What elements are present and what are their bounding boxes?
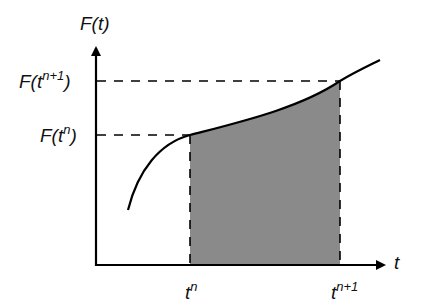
- y-tick-f-tn: F(tn): [40, 126, 77, 145]
- x-tick-tn1: tn+1: [331, 283, 358, 302]
- y-axis-label: F(t): [80, 14, 110, 33]
- diagram-canvas: [0, 0, 425, 307]
- x-axis-label: t: [394, 253, 399, 272]
- shaded-integral-region: [190, 81, 340, 265]
- x-tick-tn: tn: [185, 283, 198, 302]
- y-tick-f-tn1: F(tn+1): [19, 72, 71, 91]
